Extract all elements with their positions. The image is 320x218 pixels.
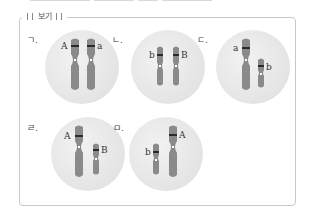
cell-c: a b: [216, 30, 290, 104]
gene-label: B: [101, 146, 108, 155]
gene-label: A: [61, 42, 68, 51]
item-label-b: ㄴ.: [112, 33, 123, 46]
cell-e: b A: [129, 117, 203, 191]
gene-label: b: [266, 63, 272, 72]
item-label-d: ㄹ.: [27, 121, 38, 134]
gene-label: b: [149, 51, 155, 60]
gene-label: b: [145, 148, 151, 157]
gene-label: B: [181, 51, 188, 60]
gene-label: A: [179, 131, 186, 140]
cell-a: A a: [45, 30, 119, 104]
chromosome-pair-icon: [45, 30, 119, 104]
cutoff-question-text: [30, 0, 230, 4]
gene-label: a: [97, 42, 102, 51]
cell-b: b B: [131, 30, 205, 104]
example-box-title: 보기: [22, 12, 67, 22]
item-label-e: ㅁ.: [113, 121, 124, 134]
chromosome-pair-icon: [216, 30, 290, 104]
item-label-a: ㄱ.: [27, 33, 38, 46]
gene-label: a: [233, 44, 238, 53]
item-label-c: ㄷ.: [197, 33, 208, 46]
chromosome-pair-icon: [129, 117, 203, 191]
chromosome-pair-icon: [131, 30, 205, 104]
example-box-title-text: 보기: [38, 12, 52, 21]
gene-label: A: [64, 132, 71, 141]
